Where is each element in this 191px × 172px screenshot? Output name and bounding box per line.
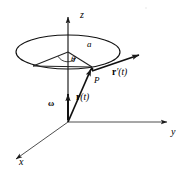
theta-angle-label: θ xyxy=(71,55,75,64)
angular-velocity-label: ω xyxy=(48,99,54,108)
vector-diagram-figure: z y x a θ P ω r(t) r′(t) xyxy=(0,0,191,172)
z-axis-label: z xyxy=(80,10,84,20)
diagram-canvas xyxy=(0,0,191,172)
point-p-marker xyxy=(91,68,94,71)
x-axis-label: x xyxy=(19,157,23,167)
velocity-vector-label: r′(t) xyxy=(112,68,127,78)
x-axis-line xyxy=(16,122,68,159)
position-vector-argument: (t) xyxy=(80,92,89,102)
radius-label: a xyxy=(87,40,92,49)
angle-reference-ray xyxy=(33,52,68,66)
point-p-label: P xyxy=(94,76,100,85)
scan-speck xyxy=(145,7,147,9)
velocity-vector-argument: (t) xyxy=(118,67,127,77)
position-vector-label: r(t) xyxy=(76,93,89,103)
y-axis-label: y xyxy=(171,127,175,137)
